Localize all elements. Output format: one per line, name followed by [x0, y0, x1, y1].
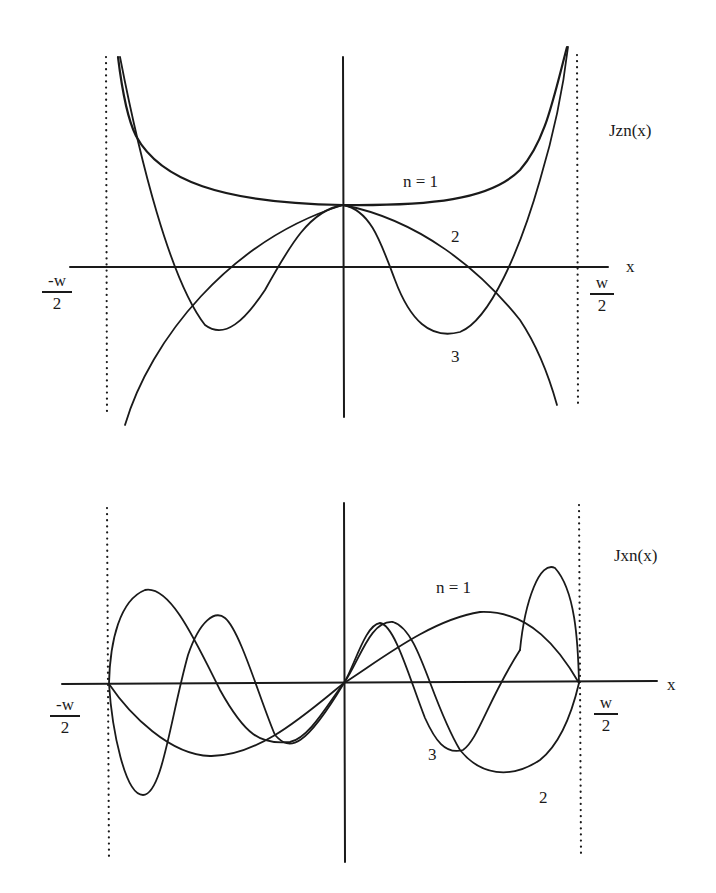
- top-left-bound-label: -w 2: [42, 272, 72, 312]
- bottom-x-axis-label: x: [667, 676, 676, 693]
- top-label-n2: 2: [451, 228, 460, 245]
- top-label-n3: 3: [451, 348, 460, 365]
- top-left-boundary: [106, 57, 107, 415]
- top-left-bound-num: -w: [42, 272, 72, 293]
- bottom-function-label: Jxn(x): [614, 547, 657, 564]
- bottom-label-n1: n = 1: [436, 579, 471, 596]
- top-left-bound-den: 2: [42, 293, 72, 312]
- bottom-plot: [62, 503, 657, 862]
- bottom-left-bound-label: -w 2: [50, 696, 80, 736]
- bottom-left-bound-den: 2: [50, 717, 80, 736]
- top-curve-n2: [125, 205, 557, 425]
- top-function-label: Jzn(x): [609, 122, 651, 139]
- bottom-curve-n3: [109, 615, 520, 795]
- top-y-axis: [343, 57, 344, 417]
- bottom-right-bound-num: w: [594, 694, 618, 715]
- bottom-left-bound-num: -w: [50, 696, 80, 717]
- top-label-n1: n = 1: [403, 173, 438, 190]
- top-right-bound-num: w: [590, 274, 614, 295]
- top-right-bound-label: w 2: [590, 274, 614, 314]
- bottom-label-n3: 3: [428, 746, 437, 763]
- bottom-right-bound-label: w 2: [594, 694, 618, 734]
- bottom-right-bound-den: 2: [594, 715, 618, 734]
- bottom-label-n2: 2: [539, 789, 548, 806]
- top-right-boundary: [577, 55, 578, 405]
- top-right-bound-den: 2: [590, 295, 614, 314]
- top-plot: [70, 47, 608, 425]
- top-x-axis-label: x: [626, 258, 635, 275]
- bottom-x-axis: [62, 681, 657, 684]
